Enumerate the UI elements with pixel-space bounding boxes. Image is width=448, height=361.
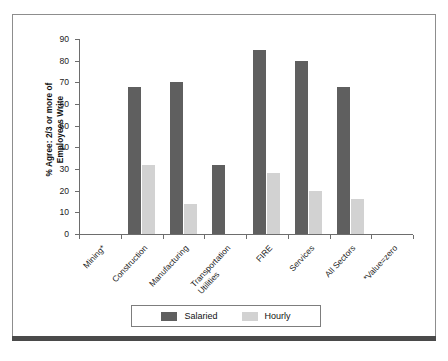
y-axis-tick-label: 70 xyxy=(59,77,69,87)
bar-salaried xyxy=(128,87,141,234)
y-axis-tick-label: 20 xyxy=(59,186,69,196)
x-axis-label-line1: Mining* xyxy=(81,243,107,270)
x-axis-label-line1: *Value=zero xyxy=(361,243,399,283)
bar-hourly xyxy=(142,165,155,234)
x-axis-label-line1: FIRE xyxy=(254,243,274,264)
x-axis-tick xyxy=(288,235,289,239)
x-axis-tick xyxy=(204,235,205,239)
y-axis-tick: 90 xyxy=(75,39,79,40)
bar-salaried xyxy=(295,61,308,234)
bar-hourly xyxy=(309,191,322,234)
bar-salaried xyxy=(337,87,350,234)
x-axis-label-line1: All Sectors xyxy=(323,243,358,279)
y-axis-tick: 10 xyxy=(75,212,79,213)
figure-bottom-rule xyxy=(12,336,436,341)
y-axis-tick-label: 10 xyxy=(59,207,69,217)
y-axis-tick: 20 xyxy=(75,191,79,192)
y-axis-tick-label: 80 xyxy=(59,56,69,66)
x-axis-tick xyxy=(121,235,122,239)
x-axis-tick xyxy=(330,235,331,239)
y-axis-tick-label: 40 xyxy=(59,142,69,152)
x-axis-tick xyxy=(371,235,372,239)
y-axis-tick: 40 xyxy=(75,147,79,148)
legend-item-hourly[interactable]: Hourly xyxy=(242,311,291,321)
y-axis-tick-label: 0 xyxy=(64,229,69,239)
y-axis-tick: 50 xyxy=(75,126,79,127)
x-axis-label-line1: Services xyxy=(287,243,316,273)
y-axis-tick-label: 30 xyxy=(59,164,69,174)
legend-label: Salaried xyxy=(184,311,217,321)
legend-swatch-hourly-icon xyxy=(242,312,258,321)
legend-item-salaried[interactable]: Salaried xyxy=(161,311,217,321)
chart-plot-area: % Agree: 2/3 or more of Employees Write … xyxy=(13,15,437,341)
x-axis-label: *Value=zero xyxy=(392,210,430,250)
y-axis-tick: 70 xyxy=(75,82,79,83)
y-axis-tick: 30 xyxy=(75,169,79,170)
chart-axes: 9080706050403020100 Mining*ConstructionM… xyxy=(79,39,413,235)
x-axis-label: Mining* xyxy=(100,223,126,250)
x-axis-tick xyxy=(79,235,80,239)
x-axis-label-line1: Construction xyxy=(110,243,149,284)
y-axis-tick: 60 xyxy=(75,104,79,105)
legend-label: Hourly xyxy=(265,311,291,321)
y-axis-tick-label: 90 xyxy=(59,34,69,44)
x-axis-tick xyxy=(413,235,414,239)
legend-swatch-salaried-icon xyxy=(161,312,177,321)
x-axis-tick xyxy=(163,235,164,239)
chart-legend: SalariedHourly xyxy=(131,305,321,327)
y-axis-line xyxy=(79,39,80,235)
y-axis-tick-label: 50 xyxy=(59,121,69,131)
x-axis-label-line1: Manufacturing xyxy=(147,243,191,289)
figure-frame: % Agree: 2/3 or more of Employees Write … xyxy=(12,14,436,340)
y-axis-tick-label: 60 xyxy=(59,99,69,109)
y-axis-tick: 80 xyxy=(75,61,79,62)
y-axis-title-line1: % Agree: 2/3 or more of xyxy=(45,50,56,210)
